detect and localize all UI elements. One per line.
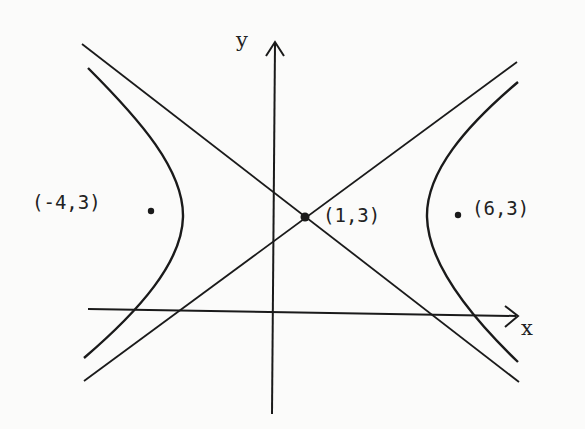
- y-axis-label: y: [236, 30, 248, 51]
- asymptote-descending: [82, 44, 519, 382]
- left-focus-dot: [148, 208, 154, 214]
- y-axis: [272, 44, 275, 414]
- center-label: (1,3): [323, 206, 380, 225]
- right-focus-dot: [455, 212, 461, 218]
- right-focus-label: (6,3): [472, 199, 529, 218]
- hyperbola-diagram: y x (-4,3) (1,3) (6,3): [0, 0, 585, 429]
- x-axis-label: x: [521, 318, 533, 339]
- asymptote-ascending: [84, 62, 517, 381]
- x-axis: [88, 309, 516, 316]
- hyperbola-right-branch: [427, 82, 518, 362]
- center-dot: [301, 213, 310, 222]
- left-focus-label: (-4,3): [32, 193, 101, 212]
